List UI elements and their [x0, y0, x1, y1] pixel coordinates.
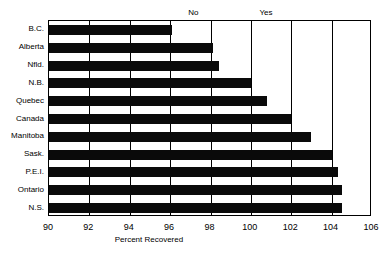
bar-row	[49, 43, 370, 53]
annotation-yes: Yes	[259, 8, 272, 17]
bar-alberta	[49, 43, 213, 53]
bar-bc	[49, 25, 172, 35]
bar-row	[49, 167, 370, 177]
x-tick-106: 106	[363, 222, 378, 232]
x-tick-102: 102	[283, 222, 298, 232]
category-label-manitoba: Manitoba	[11, 131, 44, 140]
x-tick-100: 100	[242, 222, 257, 232]
annotation-no: No	[188, 8, 198, 17]
bar-pei	[49, 167, 338, 177]
category-label-sask: Sask.	[24, 149, 44, 158]
bar-row	[49, 25, 370, 35]
bar-nfld	[49, 61, 219, 71]
bar-ontario	[49, 185, 342, 195]
bar-canada	[49, 114, 291, 124]
plot-area	[48, 20, 371, 216]
bar-row	[49, 203, 370, 213]
bar-row	[49, 150, 370, 160]
bar-quebec	[49, 96, 267, 106]
category-label-ontario: Ontario	[18, 185, 44, 194]
bar-layer	[49, 21, 370, 215]
x-tick-98: 98	[204, 222, 214, 232]
category-label-nb: N.B.	[28, 78, 44, 87]
category-label-canada: Canada	[16, 114, 44, 123]
x-tick-104: 104	[323, 222, 338, 232]
bar-nb	[49, 78, 251, 88]
bar-sask	[49, 150, 332, 160]
bar-chart: NoYes B.C.AlbertaNfld.N.B.QuebecCanadaMa…	[0, 0, 382, 255]
x-tick-90: 90	[43, 222, 53, 232]
category-label-pei: P.E.I.	[25, 167, 44, 176]
bar-row	[49, 78, 370, 88]
bar-row	[49, 114, 370, 124]
category-label-ns: N.S.	[28, 203, 44, 212]
bar-row	[49, 185, 370, 195]
x-tick-96: 96	[164, 222, 174, 232]
category-label-bc: B.C.	[28, 24, 44, 33]
x-axis-label: Percent Recovered	[115, 235, 183, 244]
cropped-title-remnant	[0, 0, 382, 6]
bar-row	[49, 96, 370, 106]
bar-row	[49, 61, 370, 71]
x-tick-92: 92	[83, 222, 93, 232]
category-label-nfld: Nfld.	[28, 60, 44, 69]
bar-ns	[49, 203, 342, 213]
bar-manitoba	[49, 132, 311, 142]
category-label-alberta: Alberta	[19, 42, 44, 51]
bar-row	[49, 132, 370, 142]
x-tick-94: 94	[124, 222, 134, 232]
category-label-quebec: Quebec	[16, 96, 44, 105]
